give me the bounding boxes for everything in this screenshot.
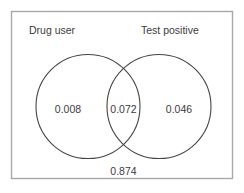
drug-user-set-label: Drug user bbox=[29, 24, 76, 36]
venn-diagram-figure: Drug user Test positive 0.008 0.072 0.04… bbox=[0, 0, 244, 193]
drug-user-only-value: 0.008 bbox=[55, 103, 81, 115]
intersection-value: 0.072 bbox=[110, 103, 136, 115]
venn-diagram-canvas: Drug user Test positive 0.008 0.072 0.04… bbox=[0, 0, 244, 193]
test-positive-set-label: Test positive bbox=[141, 24, 199, 36]
test-positive-only-value: 0.046 bbox=[166, 103, 192, 115]
outside-value: 0.874 bbox=[110, 165, 136, 177]
diagram-frame bbox=[12, 12, 233, 179]
